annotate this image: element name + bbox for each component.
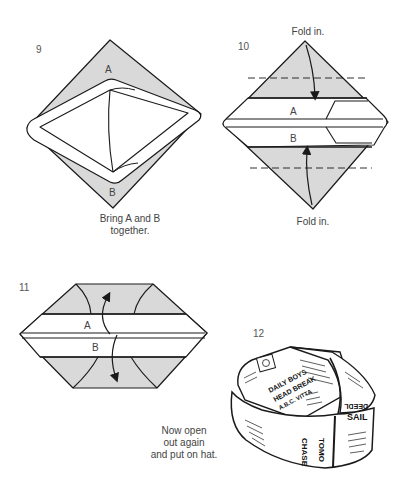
- caption-line: out again: [143, 437, 225, 449]
- step-number-11: 11: [19, 282, 29, 293]
- hat-print-6: SAIL: [347, 412, 368, 422]
- hat-print-5: TOMO: [317, 438, 326, 462]
- caption-line: Now open: [143, 425, 225, 437]
- label-b: B: [290, 133, 297, 144]
- hat-print-7: DEEDL: [344, 403, 368, 410]
- step-9-diagram: A B: [27, 40, 201, 208]
- origami-hat-diagram: A B A B A: [0, 0, 407, 485]
- hat-print-4: CHASE: [300, 438, 309, 467]
- fold-in-top-label: Fold in.: [280, 26, 336, 38]
- caption-line: and put on hat.: [143, 449, 225, 461]
- caption-line: Bring A and B: [80, 213, 180, 225]
- label-b: B: [109, 187, 116, 198]
- step-number-10: 10: [238, 41, 249, 52]
- step-12-hat-illustration: DAILY BOYS HEAD BREAK A.B.C. VITTA CHASE…: [231, 347, 375, 468]
- step-number-9: 9: [36, 44, 42, 55]
- step-12-caption: Now open out again and put on hat.: [143, 425, 225, 461]
- step-11-diagram: A B: [20, 284, 207, 388]
- step-9-caption: Bring A and B together.: [80, 213, 180, 237]
- label-a: A: [105, 64, 112, 75]
- label-a: A: [290, 106, 297, 117]
- label-b: B: [92, 342, 99, 353]
- fold-in-bottom-label: Fold in.: [285, 216, 341, 228]
- label-a: A: [84, 320, 91, 331]
- step-number-12: 12: [253, 328, 264, 339]
- caption-line: together.: [80, 225, 180, 237]
- step-10-diagram: A B: [223, 41, 388, 209]
